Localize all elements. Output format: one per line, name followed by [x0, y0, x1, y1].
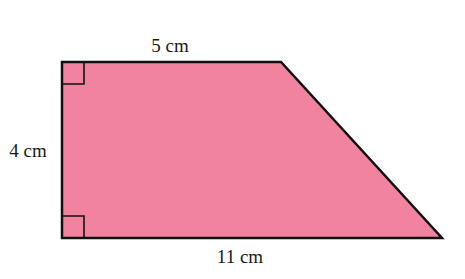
trapezoid-diagram: 5 cm 4 cm 11 cm: [0, 0, 465, 279]
left-side-label: 4 cm: [9, 140, 47, 161]
top-side-label: 5 cm: [151, 35, 189, 56]
bottom-side-label: 11 cm: [217, 246, 263, 267]
trapezoid-shape: [62, 62, 442, 238]
